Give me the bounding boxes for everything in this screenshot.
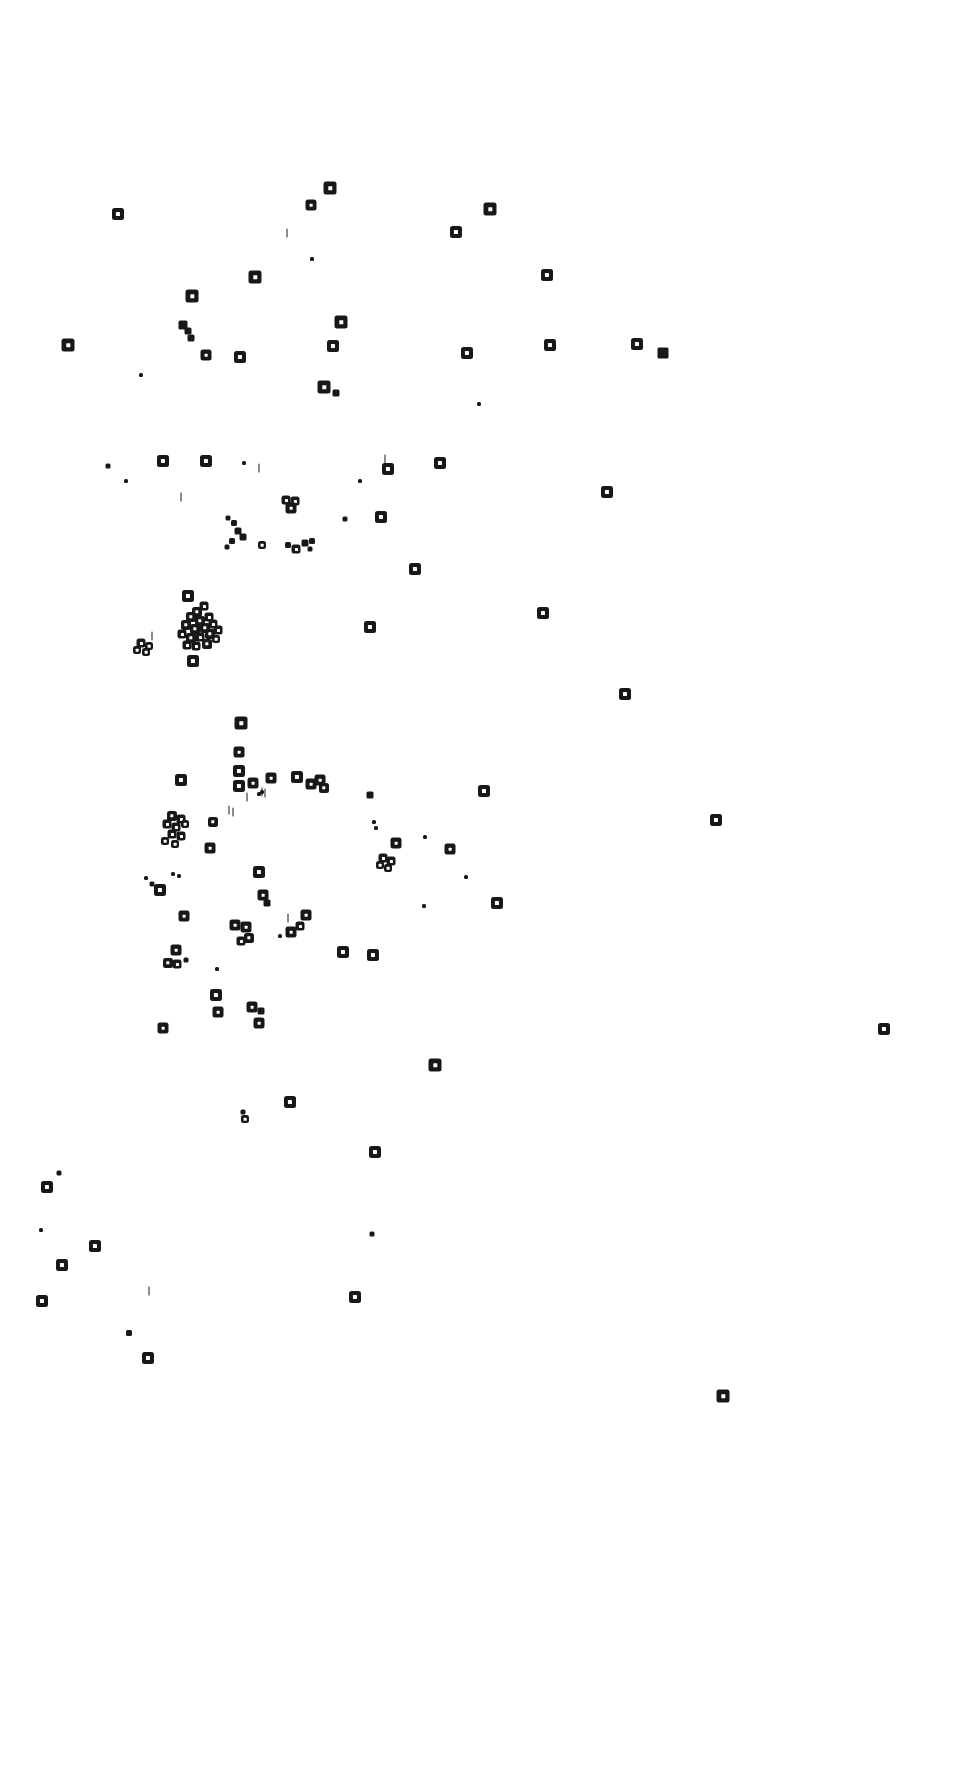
map-marker	[182, 590, 194, 602]
map-marker	[878, 1023, 890, 1035]
map-marker	[434, 457, 446, 469]
map-marker	[367, 949, 379, 961]
map-marker	[257, 792, 261, 796]
map-marker	[233, 765, 245, 777]
map-marker	[247, 1002, 258, 1013]
map-marker	[537, 607, 549, 619]
map-marker	[106, 464, 111, 469]
map-marker	[208, 817, 218, 827]
map-marker	[124, 479, 128, 483]
map-marker	[187, 655, 199, 667]
map-marker	[429, 1059, 442, 1072]
map-marker	[259, 464, 260, 473]
map-marker	[422, 904, 426, 908]
map-marker	[461, 347, 473, 359]
map-marker	[265, 789, 266, 798]
map-marker	[225, 545, 230, 550]
map-marker	[171, 872, 175, 876]
map-marker	[343, 517, 348, 522]
map-marker	[445, 844, 456, 855]
map-marker	[213, 1007, 224, 1018]
map-marker	[364, 621, 376, 633]
map-marker	[36, 1295, 48, 1307]
map-marker	[296, 922, 305, 931]
map-marker	[319, 783, 329, 793]
map-marker	[291, 771, 303, 783]
map-marker	[39, 1228, 43, 1232]
map-marker	[177, 832, 186, 841]
map-marker	[241, 1110, 246, 1115]
map-marker	[310, 257, 314, 261]
map-marker	[349, 1291, 361, 1303]
map-marker	[149, 1287, 150, 1296]
map-marker	[154, 884, 166, 896]
map-marker	[237, 937, 246, 946]
map-marker	[214, 626, 223, 635]
map-marker	[423, 835, 427, 839]
map-marker	[41, 1181, 53, 1193]
map-marker	[301, 910, 312, 921]
map-marker	[188, 335, 195, 342]
map-marker	[302, 540, 309, 547]
scatter-plot-canvas	[0, 0, 961, 1767]
map-marker	[327, 340, 339, 352]
map-marker	[601, 486, 613, 498]
map-marker	[133, 646, 141, 654]
map-marker	[710, 814, 722, 826]
map-marker	[253, 866, 265, 878]
map-marker	[230, 920, 241, 931]
map-marker	[163, 958, 173, 968]
map-marker	[112, 208, 124, 220]
map-marker	[57, 1171, 62, 1176]
map-marker	[171, 945, 182, 956]
map-marker	[491, 897, 503, 909]
map-marker	[144, 876, 148, 880]
map-marker	[308, 547, 313, 552]
map-marker	[177, 874, 181, 878]
map-marker	[205, 843, 216, 854]
map-marker	[391, 838, 402, 849]
map-marker	[200, 602, 209, 611]
map-marker	[181, 820, 189, 828]
map-marker	[318, 381, 331, 394]
map-marker	[229, 538, 235, 544]
map-marker	[192, 642, 201, 651]
map-marker	[292, 545, 301, 554]
map-marker	[163, 820, 172, 829]
map-marker	[183, 641, 192, 650]
map-marker	[142, 648, 150, 656]
map-marker	[241, 922, 252, 933]
map-marker	[262, 788, 263, 797]
map-marker	[372, 820, 376, 824]
map-marker	[333, 390, 340, 397]
map-marker	[152, 632, 153, 641]
map-marker	[168, 830, 177, 839]
map-marker	[464, 875, 468, 879]
map-marker	[181, 493, 182, 502]
map-marker	[126, 1330, 132, 1336]
map-marker	[175, 774, 187, 786]
map-marker	[173, 960, 182, 969]
map-marker	[284, 1096, 296, 1108]
map-marker	[249, 271, 262, 284]
map-marker	[234, 351, 246, 363]
map-marker	[324, 182, 337, 195]
map-marker	[477, 402, 481, 406]
map-marker	[285, 542, 291, 548]
map-marker	[358, 479, 362, 483]
map-marker	[89, 1240, 101, 1252]
map-marker	[717, 1390, 730, 1403]
map-marker	[658, 348, 669, 359]
map-marker	[247, 793, 248, 802]
map-marker	[215, 967, 219, 971]
map-marker	[171, 840, 179, 848]
map-marker	[139, 373, 143, 377]
map-marker	[202, 639, 212, 649]
map-marker	[210, 989, 222, 1001]
map-marker	[229, 806, 230, 815]
map-marker	[234, 747, 245, 758]
map-marker	[142, 1352, 154, 1364]
map-marker	[287, 229, 288, 238]
map-marker	[288, 914, 289, 923]
map-marker	[544, 339, 556, 351]
